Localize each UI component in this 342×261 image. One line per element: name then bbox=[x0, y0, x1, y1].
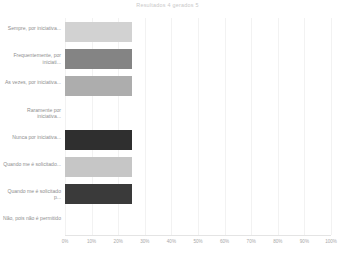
tick-label: 20% bbox=[105, 239, 131, 244]
category-label: Quando me é solicitado... bbox=[2, 161, 61, 167]
bar-row[interactable] bbox=[65, 127, 331, 154]
tick-label: 30% bbox=[132, 239, 158, 244]
tick-label: 10% bbox=[79, 239, 105, 244]
bar[interactable] bbox=[65, 76, 132, 96]
bar-row[interactable] bbox=[65, 45, 331, 72]
bar[interactable] bbox=[65, 184, 132, 204]
tick-label: 60% bbox=[212, 239, 238, 244]
bar-row[interactable] bbox=[65, 154, 331, 181]
category-label: Não, pois não é permitido bbox=[2, 215, 61, 221]
chart-title: Resultados 4 gerados 5 bbox=[0, 2, 335, 8]
tick-label: 80% bbox=[265, 239, 291, 244]
bar-row[interactable] bbox=[65, 181, 331, 208]
gridline bbox=[331, 18, 332, 235]
bar[interactable] bbox=[65, 22, 132, 42]
tick-label: 100% bbox=[318, 239, 342, 244]
x-axis-line bbox=[65, 235, 331, 236]
bar-row[interactable] bbox=[65, 99, 331, 126]
category-label: Raramente por iniciativa... bbox=[2, 107, 61, 120]
category-label: Nunca por iniciativa... bbox=[2, 134, 61, 140]
tick-label: 70% bbox=[238, 239, 264, 244]
category-label: Quando me é solicitado p... bbox=[2, 188, 61, 201]
tick-label: 50% bbox=[185, 239, 211, 244]
tick-label: 90% bbox=[291, 239, 317, 244]
plot-area bbox=[65, 18, 331, 235]
bar-row[interactable] bbox=[65, 18, 331, 45]
bar-row[interactable] bbox=[65, 208, 331, 235]
bar-row[interactable] bbox=[65, 72, 331, 99]
category-label: Sempre, por iniciativa... bbox=[2, 25, 61, 31]
tick-label: 0% bbox=[52, 239, 78, 244]
bar[interactable] bbox=[65, 49, 132, 69]
category-label: As vezes, por iniciativa... bbox=[2, 79, 61, 85]
category-label: Frequentemente, por iniciati... bbox=[2, 52, 61, 65]
tick-label: 40% bbox=[158, 239, 184, 244]
bar[interactable] bbox=[65, 130, 132, 150]
bar[interactable] bbox=[65, 157, 132, 177]
